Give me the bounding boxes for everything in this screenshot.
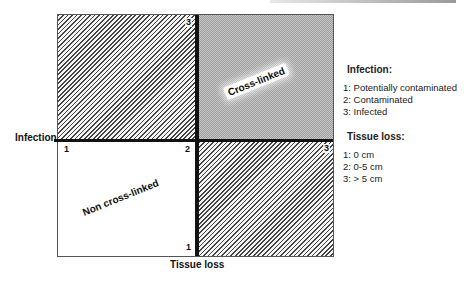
tick-tissue-3: 3 (323, 144, 330, 153)
legend-infection: Infection: 1: Potentially contaminated 2… (343, 64, 457, 118)
tick-tissue-1: 1 (64, 145, 69, 154)
tick-infection-3: 3 (185, 18, 192, 27)
classification-grid: 3 1 2 3 1 Cross-linked Non cross-linked (57, 14, 334, 257)
legend-tissue-loss-item: 1: 0 cm (343, 149, 405, 161)
y-axis-label: Infection (15, 132, 57, 143)
legend-tissue-loss: Tissue loss: 1: 0 cm 2: 0-5 cm 3: > 5 cm (343, 131, 405, 185)
legend-tissue-loss-title: Tissue loss: (347, 131, 405, 143)
vertical-axis-line (195, 15, 199, 256)
quadrant-bottom-right (199, 142, 333, 256)
tick-infection-1: 1 (186, 243, 191, 252)
legend-infection-item: 1: Potentially contaminated (343, 82, 457, 94)
legend-tissue-loss-item: 2: 0-5 cm (343, 161, 405, 173)
tick-center-2: 2 (185, 145, 190, 154)
top-edge-strip (270, 0, 456, 3)
legend-tissue-loss-item: 3: > 5 cm (343, 173, 405, 185)
quadrant-top-left (58, 15, 195, 139)
horizontal-axis-line (54, 139, 333, 142)
x-axis-label: Tissue loss (170, 259, 224, 270)
legend-infection-item: 2: Contaminated (343, 94, 457, 106)
legend-infection-item: 3: Infected (343, 106, 457, 118)
legend-infection-title: Infection: (347, 64, 457, 76)
